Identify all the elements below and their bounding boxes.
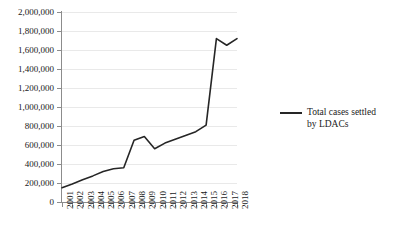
x-axis-tick-label: 2016 xyxy=(220,191,229,209)
y-axis-tick xyxy=(57,164,62,165)
x-axis-tick-label: 2015 xyxy=(210,191,219,209)
y-axis-tick-label: 800,000 xyxy=(0,122,54,131)
legend-label-line-1: Total cases settled xyxy=(307,107,376,117)
grid-line xyxy=(62,164,237,165)
x-axis-tick-label: 2013 xyxy=(190,191,199,209)
y-axis-tick xyxy=(57,12,62,13)
x-axis-tick-label: 2004 xyxy=(97,191,106,209)
y-axis-tick-label: 1,000,000 xyxy=(0,103,54,112)
x-axis-tick-label: 2005 xyxy=(107,191,116,209)
y-axis-tick-label: 600,000 xyxy=(0,141,54,150)
x-axis-tick-label: 2012 xyxy=(179,191,188,209)
y-axis-tick-label: 2,000,000 xyxy=(0,8,54,17)
y-axis-tick xyxy=(57,88,62,89)
y-axis-tick-label: 400,000 xyxy=(0,160,54,169)
y-axis-tick xyxy=(57,126,62,127)
x-axis-tick-label: 2003 xyxy=(87,191,96,209)
y-axis-tick-label: 1,200,000 xyxy=(0,84,54,93)
legend-swatch-total-cases-settled xyxy=(280,107,302,118)
y-axis-tick-label: 1,800,000 xyxy=(0,27,54,36)
grid-line xyxy=(62,183,237,184)
x-axis-tick xyxy=(62,202,63,207)
x-axis-tick-label: 2002 xyxy=(76,191,85,209)
x-axis-tick-label: 2009 xyxy=(148,191,157,209)
grid-line xyxy=(62,107,237,108)
grid-line xyxy=(62,126,237,127)
x-axis-tick-label: 2006 xyxy=(117,191,126,209)
legend-label-line-2: by LDACs xyxy=(307,119,348,129)
x-axis-tick-label: 2018 xyxy=(241,191,250,209)
y-axis-tick xyxy=(57,183,62,184)
y-axis-tick xyxy=(57,145,62,146)
x-axis-tick-label: 2001 xyxy=(66,191,75,209)
grid-line xyxy=(62,88,237,89)
y-axis-tick xyxy=(57,69,62,70)
y-axis-tick-label: 200,000 xyxy=(0,179,54,188)
y-axis-tick xyxy=(57,107,62,108)
grid-line xyxy=(62,69,237,70)
grid-line xyxy=(62,50,237,51)
y-axis-tick-label: 1,600,000 xyxy=(0,46,54,55)
chart-legend: Total cases settled by LDACs xyxy=(280,107,376,131)
legend-label-total-cases-settled: Total cases settled by LDACs xyxy=(307,107,376,131)
plot-area xyxy=(62,12,237,202)
x-axis-tick-label: 2007 xyxy=(128,191,137,209)
y-axis-tick xyxy=(57,31,62,32)
x-axis-tick-label: 2010 xyxy=(159,191,168,209)
x-axis-tick-label: 2011 xyxy=(169,191,178,209)
y-axis-tick-label: 1,400,000 xyxy=(0,65,54,74)
grid-line xyxy=(62,145,237,146)
grid-line xyxy=(62,31,237,32)
x-axis-tick-label: 2008 xyxy=(138,191,147,209)
line-chart: 0200,000400,000600,000800,0001,000,0001,… xyxy=(0,0,401,252)
y-axis-tick-label: 0 xyxy=(0,198,54,207)
x-axis-tick-label: 2014 xyxy=(200,191,209,209)
y-axis-tick xyxy=(57,50,62,51)
x-axis-tick-label: 2017 xyxy=(231,191,240,209)
grid-line xyxy=(62,12,237,13)
